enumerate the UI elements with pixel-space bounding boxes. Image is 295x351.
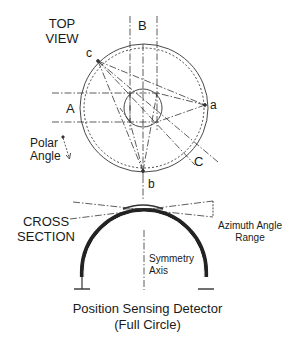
label-C: C <box>194 155 203 168</box>
symmetry-axis-label: Symmetry Axis <box>149 254 194 276</box>
cross-section-label: CROSS SECTION <box>14 215 78 243</box>
top-view-label: TOP VIEW <box>42 17 82 45</box>
label-c: c <box>86 47 92 59</box>
azimuth-range-label: Azimuth Angle Range <box>214 221 286 243</box>
detector-diagram <box>0 0 295 351</box>
label-a: a <box>210 99 217 111</box>
polar-angle-label: Polar Angle <box>30 137 61 162</box>
label-B: B <box>138 19 147 32</box>
caption: Position Sensing Detector (Full Circle) <box>40 302 255 331</box>
inner-dotted-circle <box>84 48 204 168</box>
label-b: b <box>148 178 155 190</box>
label-A: A <box>66 102 75 115</box>
